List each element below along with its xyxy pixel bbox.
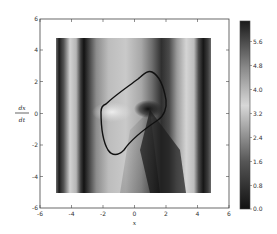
svg-text:0: 0 <box>34 110 38 117</box>
colorbar-tick-labels: 5.6 4.8 4.0 3.2 2.4 1.6 0.8 0.0 <box>253 38 263 213</box>
svg-text:-4: -4 <box>69 210 75 217</box>
svg-text:dt: dt <box>19 116 26 123</box>
svg-text:-2: -2 <box>32 141 38 148</box>
svg-text:2: 2 <box>34 78 38 85</box>
svg-text:4: 4 <box>34 46 38 53</box>
svg-text:4.8: 4.8 <box>253 62 263 69</box>
svg-text:2.4: 2.4 <box>253 134 263 141</box>
svg-text:0: 0 <box>133 210 137 217</box>
x-tick-labels: -6 -4 -2 0 2 4 6 <box>37 210 231 217</box>
y-axis-label: dx dt <box>15 104 29 123</box>
svg-text:-2: -2 <box>100 210 106 217</box>
svg-text:-6: -6 <box>37 210 43 217</box>
svg-text:6: 6 <box>34 15 38 22</box>
figure: -6 -4 -2 0 2 4 6 x 6 4 2 0 -2 -4 -6 dx d… <box>0 0 277 234</box>
svg-text:-4: -4 <box>32 173 38 180</box>
svg-text:3.2: 3.2 <box>253 110 263 117</box>
heatmap <box>56 38 211 193</box>
svg-text:0.8: 0.8 <box>253 182 263 189</box>
svg-text:dx: dx <box>18 104 26 111</box>
svg-text:-6: -6 <box>32 204 38 211</box>
svg-text:5.6: 5.6 <box>253 38 263 45</box>
svg-text:0.0: 0.0 <box>253 205 263 212</box>
svg-text:4.0: 4.0 <box>253 86 263 93</box>
svg-text:6: 6 <box>227 210 231 217</box>
svg-text:2: 2 <box>164 210 168 217</box>
svg-text:1.6: 1.6 <box>253 158 263 165</box>
x-axis-label: x <box>133 219 137 226</box>
y-tick-labels: 6 4 2 0 -2 -4 -6 <box>32 15 38 211</box>
colorbar: 5.6 4.8 4.0 3.2 2.4 1.6 0.8 0.0 <box>240 21 263 212</box>
svg-text:4: 4 <box>196 210 200 217</box>
